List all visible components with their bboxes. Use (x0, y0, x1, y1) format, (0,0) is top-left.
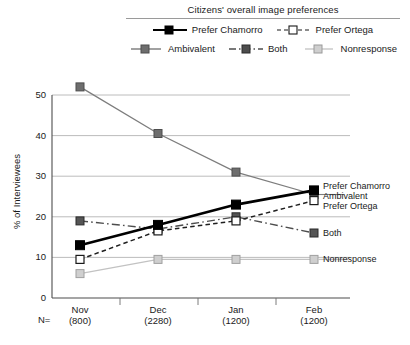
x-tick-dec: Dec (2280) (129, 304, 187, 326)
series-end-label-both: Both (323, 228, 342, 238)
axis-spines (52, 95, 350, 305)
x-tick-dec-month: Dec (129, 304, 187, 315)
x-tick-feb-month: Feb (285, 304, 343, 315)
x-tick-nov: Nov (800) (51, 304, 109, 326)
chart-figure: Citizens' overall image preferences Pref… (0, 0, 410, 345)
x-tick-nov-month: Nov (51, 304, 109, 315)
gridlines (52, 95, 350, 257)
series-ambivalent (76, 83, 344, 199)
x-tick-jan-n: (1200) (207, 315, 265, 326)
series-prefer-ortega (76, 197, 318, 264)
series-nonresponse (76, 255, 348, 277)
plot-area (0, 0, 410, 345)
series-end-label-prefer-chamorro: Prefer Chamorro (323, 181, 390, 191)
x-axis-n-prefix: N= (38, 314, 50, 325)
series-end-label-nonresponse: Nonresponse (323, 254, 377, 264)
x-tick-dec-n: (2280) (129, 315, 187, 326)
x-tick-jan-month: Jan (207, 304, 265, 315)
x-tick-nov-n: (800) (51, 315, 109, 326)
series-prefer-chamorro (76, 186, 319, 250)
series-end-label-prefer-ortega: Prefer Ortega (323, 201, 378, 211)
series-end-label-ambivalent: Ambivalent (323, 191, 368, 201)
x-tick-jan: Jan (1200) (207, 304, 265, 326)
x-tick-feb: Feb (1200) (285, 304, 343, 326)
x-tick-feb-n: (1200) (285, 315, 343, 326)
